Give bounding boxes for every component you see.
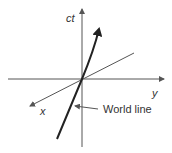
ct-axis-label: ct [66,12,76,24]
world-line-pointer [75,106,98,109]
x-axis-label: x [39,105,46,117]
world-line-label: World line [103,103,152,115]
y-axis-label: y [151,87,159,99]
world-line [57,29,99,139]
spacetime-diagram: ct y x World line [0,0,172,153]
